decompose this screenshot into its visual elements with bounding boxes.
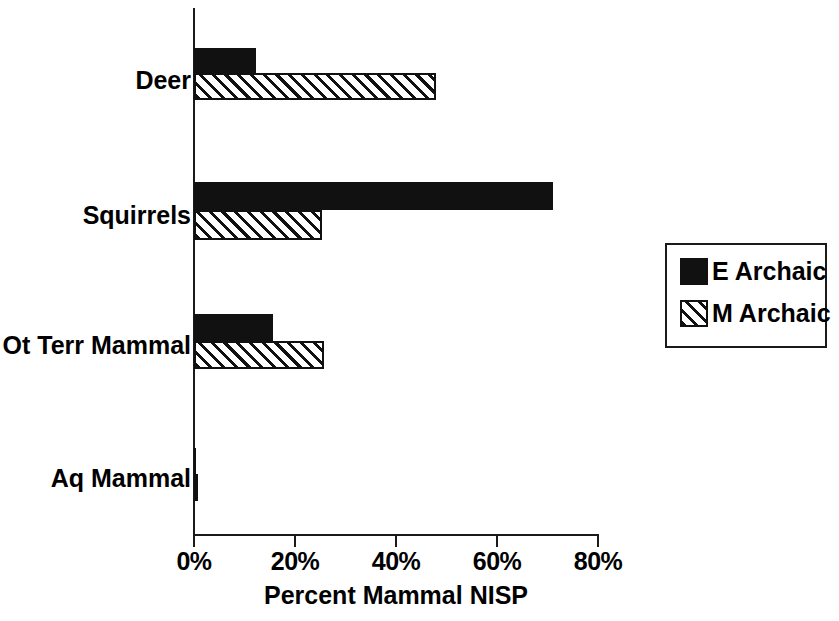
bar-e-archaic [194,448,196,474]
bar-e-archaic [194,48,256,73]
x-tick-60 [496,536,498,547]
x-tick-label: 80% [574,549,623,574]
bar-e-archaic [194,182,553,210]
x-tick-label: 60% [473,549,522,574]
category-label: Deer [135,68,191,93]
category-label: Ot Terr Mammal [3,333,191,358]
x-axis-title: Percent Mammal NISP [264,583,528,608]
legend-item-m-archaic: M Archaic [680,300,831,327]
chart-legend: E Archaic M Archaic [665,243,827,348]
x-tick-label: 0% [176,549,211,574]
bar-e-archaic [194,314,273,341]
x-tick-0 [193,536,195,547]
bar-chart-figure: 0%20%40%60%80% DeerSquirrelsOt Terr Mamm… [0,0,839,621]
legend-item-e-archaic: E Archaic [680,258,826,285]
legend-label: M Archaic [712,301,831,326]
bar-m-archaic [194,73,436,100]
bar-m-archaic [194,341,324,369]
x-tick-label: 40% [372,549,421,574]
category-label: Squirrels [83,203,191,228]
x-tick-40 [395,536,397,547]
category-label: Aq Mammal [51,466,191,491]
legend-label: E Archaic [712,259,826,284]
legend-swatch-hatch-icon [680,300,708,327]
x-tick-label: 20% [271,549,320,574]
legend-swatch-solid-icon [680,258,708,285]
bar-m-archaic [194,474,198,501]
bar-m-archaic [194,210,322,240]
x-tick-80 [597,536,599,547]
x-tick-20 [294,536,296,547]
